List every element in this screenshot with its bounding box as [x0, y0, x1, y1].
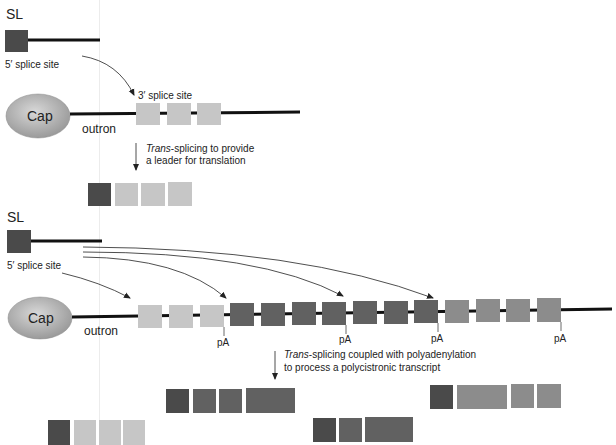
exon [197, 103, 221, 125]
cistron-1-exons [138, 305, 224, 328]
splice-arrow-1 [83, 257, 226, 298]
trans-splicing-diagram: SL 5′ splice site Cap outron 3′ splice s… [0, 0, 616, 445]
svg-text:pA: pA [431, 333, 444, 344]
outron-label: outron [82, 122, 116, 136]
panel-1: SL 5′ splice site Cap outron 3′ splice s… [5, 6, 300, 206]
step-2-caption-line-1: Trans-splicing coupled with polyadenylat… [284, 349, 476, 360]
mature-mrna-4 [430, 384, 561, 409]
mature-mrna-3 [313, 417, 413, 442]
splice-arrow-0 [62, 273, 130, 298]
cap-label: Cap [27, 108, 53, 124]
exon [136, 103, 160, 125]
svg-text:pA: pA [339, 334, 352, 345]
cap-label-2: Cap [28, 310, 54, 326]
panel-2: SL 5′ splice site Cap outron [7, 209, 612, 445]
five-prime-splice-site-label-2: 5′ splice site [7, 260, 62, 271]
spliced-mrna-1 [88, 182, 192, 206]
five-prime-splice-site-label: 5′ splice site [5, 59, 60, 70]
svg-text:pA: pA [554, 333, 567, 344]
mature-mrna-1 [48, 420, 145, 445]
splice-arrow [82, 56, 134, 95]
mature-mrna-2 [166, 388, 295, 413]
splice-arrow-2 [83, 252, 343, 296]
sl-label: SL [6, 6, 23, 22]
sl-exon-2 [7, 230, 31, 253]
three-prime-splice-site-label: 3′ splice site [138, 90, 193, 101]
step-2-caption-line-2: to process a polycistronic transcript [284, 362, 440, 373]
sl-label-2: SL [7, 209, 24, 225]
step-1-caption-line-2: a leader for translation [146, 155, 246, 166]
svg-text:pA: pA [217, 337, 230, 348]
splice-arrow-3 [83, 247, 433, 298]
exon [167, 103, 191, 125]
cistron-3-exons [353, 300, 438, 324]
outron-label-2: outron [84, 324, 118, 338]
step-1-caption-line-1: Trans-splicing to provide [146, 143, 255, 154]
sl-exon [5, 30, 28, 52]
